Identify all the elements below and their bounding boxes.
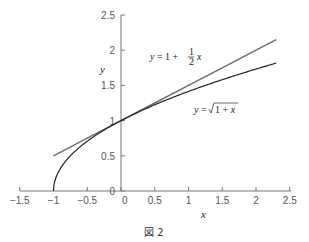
y-tick-label: 2.5 <box>101 10 115 21</box>
y-tick-label: 1.5 <box>101 80 115 91</box>
svg-text:1 + x: 1 + x <box>215 104 236 115</box>
svg-text:2: 2 <box>189 56 194 67</box>
x-tick-label: −1 <box>48 195 60 206</box>
x-tick-label: 1 <box>186 195 192 206</box>
x-tick-label: 0.5 <box>148 195 162 206</box>
x-tick-label: 2 <box>253 195 259 206</box>
svg-text:x: x <box>196 51 202 62</box>
y-tick-label: 0.5 <box>101 151 115 162</box>
x-tick-label: 2.5 <box>283 195 297 206</box>
x-tick-label: −0.5 <box>77 195 97 206</box>
figure-caption: 図 2 <box>144 227 164 238</box>
x-axis-label: x <box>200 208 206 220</box>
svg-text:y = 1 +: y = 1 + <box>149 51 179 62</box>
tangent-label: y = 1 + 1 2 x <box>149 46 202 67</box>
sqrt-curve <box>54 63 277 191</box>
sqrt-label: y = 1 + x <box>193 103 238 115</box>
x-tick-label: 0 <box>122 195 128 206</box>
y-tick-label: 0 <box>109 186 115 197</box>
chart-figure: −1.5−1−0.500.511.522.5 00.511.522.5 y x … <box>0 0 309 242</box>
y-axis-label: y <box>99 63 105 75</box>
x-tick-label: −1.5 <box>10 195 30 206</box>
y-tick-label: 2 <box>109 45 115 56</box>
x-tick-label: 1.5 <box>215 195 229 206</box>
svg-text:y =: y = <box>193 104 207 115</box>
